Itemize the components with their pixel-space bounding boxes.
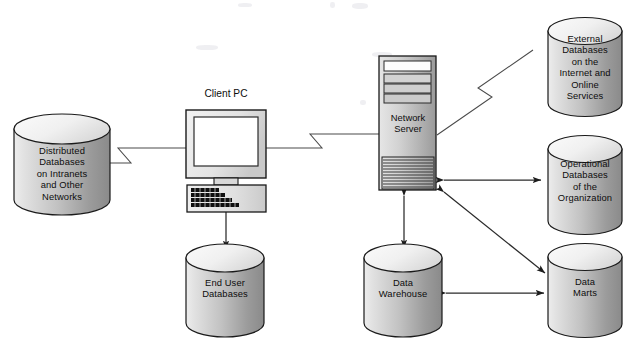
connector-distributed-to-pc <box>110 148 186 163</box>
label-network-server: Network Server <box>373 112 443 135</box>
label-end-user-databases: End User Databases <box>185 277 265 300</box>
connector-server-to-datamarts <box>444 192 545 273</box>
connector-pc-to-server <box>266 134 379 148</box>
label-operational-databases: Operational Databases of the Organizatio… <box>545 158 625 204</box>
connector-server-to-external <box>437 50 533 135</box>
label-distributed-databases: Distributed Databases on Intranets and O… <box>12 145 112 202</box>
node-client-pc <box>186 110 266 212</box>
label-external-databases: External Databases on the Internet and O… <box>545 33 625 101</box>
label-client-pc: Client PC <box>186 88 266 99</box>
diagram-canvas: Distributed Databases on Intranets and O… <box>0 0 641 345</box>
label-data-warehouse: Data Warehouse <box>363 277 443 300</box>
label-data-marts: Data Marts <box>545 276 625 299</box>
